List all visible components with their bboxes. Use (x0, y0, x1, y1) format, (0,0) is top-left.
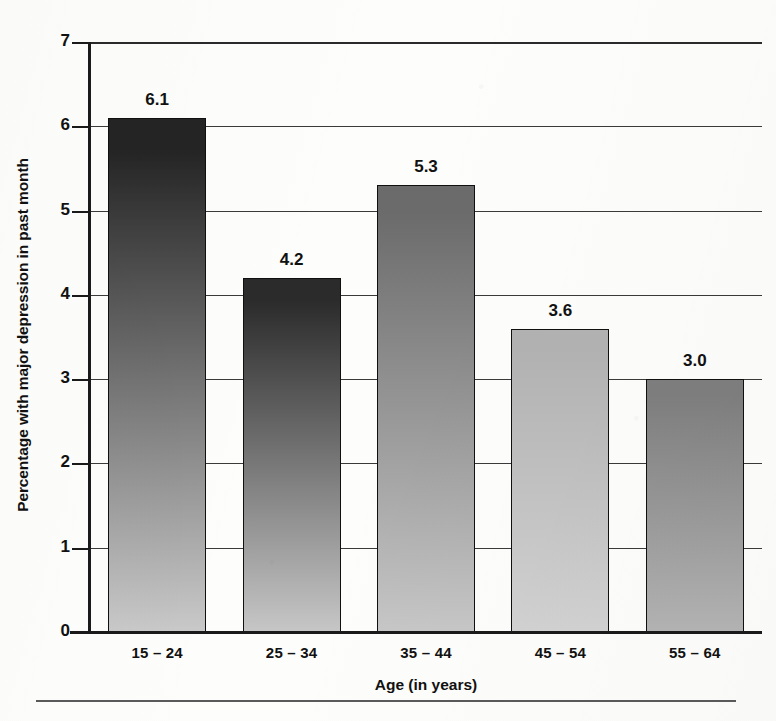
bar (377, 185, 475, 632)
x-tick-label: 25 – 34 (222, 644, 362, 661)
y-tick-label: 7 (30, 31, 70, 51)
bar-chart-figure: Percentage with major depression in past… (0, 0, 776, 721)
bar-value-label: 3.0 (626, 351, 764, 371)
y-tick-label: 3 (30, 368, 70, 388)
x-tick-label: 45 – 54 (490, 644, 630, 661)
x-tick-label: 35 – 44 (356, 644, 496, 661)
x-axis-label: Age (in years) (90, 676, 762, 694)
y-axis-label: Percentage with major depression in past… (14, 100, 32, 570)
gridline (90, 42, 762, 44)
bar-value-label: 4.2 (223, 250, 361, 270)
y-tick-label: 6 (30, 115, 70, 135)
bar-value-label: 3.6 (491, 301, 629, 321)
bar-value-label: 5.3 (357, 157, 495, 177)
y-tick-mark (72, 42, 89, 44)
bar (108, 118, 206, 632)
y-tick-mark (72, 126, 89, 128)
y-tick-mark (72, 295, 89, 297)
bar-value-label: 6.1 (88, 90, 226, 110)
plot-area (90, 42, 762, 632)
y-tick-label: 2 (30, 452, 70, 472)
x-axis-line (70, 631, 762, 634)
y-tick-label: 4 (30, 284, 70, 304)
bar (511, 329, 609, 632)
x-tick-label: 55 – 64 (625, 644, 765, 661)
y-tick-label: 1 (30, 537, 70, 557)
y-tick-label: 5 (30, 200, 70, 220)
y-axis-line (88, 42, 91, 634)
y-tick-mark (72, 463, 89, 465)
footer-divider (36, 700, 736, 702)
y-tick-label: 0 (30, 621, 70, 641)
bar (646, 379, 744, 632)
y-tick-mark (72, 379, 89, 381)
y-tick-mark (72, 548, 89, 550)
x-tick-label: 15 – 24 (87, 644, 227, 661)
y-tick-mark (72, 211, 89, 213)
bar (243, 278, 341, 632)
